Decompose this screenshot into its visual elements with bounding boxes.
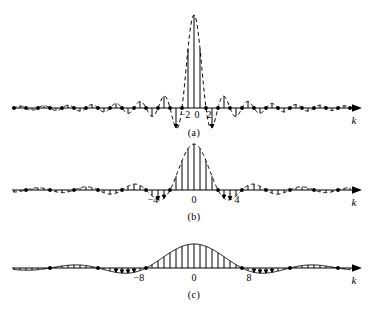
tick-label-a-neg: −2 (180, 109, 191, 120)
zero-crossing-dot (336, 266, 340, 270)
zero-crossing-dot (168, 106, 172, 110)
panel-b: −4 0 4 k (b) (12, 144, 362, 223)
zero-crossing-dot (84, 106, 88, 110)
zero-crossing-dot (144, 266, 148, 270)
zero-crossing-dot (288, 266, 292, 270)
tick-label-b-pos: 4 (235, 194, 240, 205)
zero-crossing-dot (348, 106, 352, 110)
panel-c: −8 0 8 k (c) (12, 244, 362, 301)
zero-crossing-dot (216, 106, 220, 110)
zero-crossing-dot (36, 106, 40, 110)
caption-b: (b) (187, 211, 200, 223)
zero-crossing-dot (336, 188, 340, 192)
tick-label-c-neg: −8 (134, 272, 145, 283)
tick-label-a-pos: 2 (207, 109, 212, 120)
zero-crossing-dot (240, 188, 244, 192)
axis-variable-c: k (352, 274, 358, 286)
zero-crossing-dot (12, 106, 16, 110)
zero-crossing-dot (144, 188, 148, 192)
zero-crossing-dot (120, 188, 124, 192)
zero-crossing-dot (72, 188, 76, 192)
zero-crossing-dot (48, 188, 52, 192)
zero-crossing-dot (120, 106, 124, 110)
zero-crossing-dot (72, 106, 76, 110)
zero-crossing-dot (48, 266, 52, 270)
zero-crossing-dot (96, 266, 100, 270)
tick-label-c-pos: 8 (247, 272, 252, 283)
zero-crossing-dot (252, 106, 256, 110)
zero-crossing-dot (96, 188, 100, 192)
zero-crossing-dot (240, 106, 244, 110)
zero-crossing-dot (60, 106, 64, 110)
caption-c: (c) (188, 289, 201, 301)
zero-crossing-dot (336, 106, 340, 110)
zero-crossing-dot (24, 106, 28, 110)
zero-crossing-dot (168, 188, 172, 192)
zero-crossing-dot (324, 106, 328, 110)
zero-crossing-dot (276, 106, 280, 110)
zero-crossing-dot (240, 266, 244, 270)
zero-crossing-dot (108, 106, 112, 110)
caption-a: (a) (188, 127, 201, 139)
tick-label-a-zero: 0 (195, 109, 200, 120)
zero-crossing-dot (228, 106, 232, 110)
zero-crossing-dot (312, 188, 316, 192)
panel-b-stems (14, 144, 350, 200)
zero-crossing-dot (156, 106, 160, 110)
sinc-spectra-figure: −2 0 2 k (a) −4 0 4 k (b) (0, 0, 388, 311)
zero-crossing-dot (312, 106, 316, 110)
zero-crossing-dot (264, 106, 268, 110)
axis-variable-a: k (352, 114, 358, 126)
zero-crossing-dot (132, 106, 136, 110)
zero-crossing-dot (288, 106, 292, 110)
zero-crossing-dot (48, 106, 52, 110)
zero-crossing-dot (300, 106, 304, 110)
zero-crossing-dot (264, 188, 268, 192)
panel-a: −2 0 2 k (a) (12, 15, 362, 139)
zero-crossing-dot (96, 106, 100, 110)
tick-label-b-zero: 0 (192, 194, 197, 205)
zero-crossing-dot (288, 188, 292, 192)
panel-c-stems (14, 244, 350, 273)
tick-label-b-neg: −4 (148, 194, 159, 205)
figure-container: −2 0 2 k (a) −4 0 4 k (b) (0, 0, 388, 311)
axis-variable-b: k (352, 196, 358, 208)
zero-crossing-dot (216, 188, 220, 192)
tick-label-c-zero: 0 (192, 272, 197, 283)
zero-crossing-dot (24, 188, 28, 192)
zero-crossing-dot (144, 106, 148, 110)
